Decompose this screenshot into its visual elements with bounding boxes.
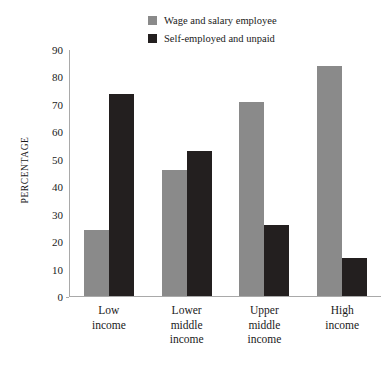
x-axis-labels: LowincomeLowermiddleincomeUppermiddleinc… <box>70 303 381 347</box>
y-tick-label-60: 60 <box>52 126 63 138</box>
bar <box>84 230 109 296</box>
x-axis-label-line: Upper <box>227 303 301 318</box>
x-axis-label-line: income <box>227 332 301 347</box>
legend-item-self-employed: Self-employed and unpaid <box>148 32 277 44</box>
bar <box>317 66 342 296</box>
bar <box>187 151 212 296</box>
x-axis-label-line: income <box>72 318 146 333</box>
x-axis-label-line: middle <box>150 318 224 333</box>
bar-group <box>84 50 134 296</box>
bar <box>264 225 289 296</box>
y-tick-label-10: 10 <box>52 264 63 276</box>
x-axis-label: Highincome <box>305 303 379 347</box>
y-tick-label-50: 50 <box>52 154 63 166</box>
x-axis-label-line: Low <box>72 303 146 318</box>
y-tick-label-70: 70 <box>52 99 63 111</box>
bar <box>239 102 264 296</box>
bar-group <box>317 50 367 296</box>
y-tick-mark-0 <box>66 297 69 298</box>
y-tick-label-80: 80 <box>52 71 63 83</box>
legend-swatch-self-employed <box>148 34 157 43</box>
x-axis-line <box>69 296 381 297</box>
bar-series-container <box>70 50 381 296</box>
x-axis-label-line: income <box>305 318 379 333</box>
legend-label-wage: Wage and salary employee <box>164 15 277 26</box>
plot-area: 0102030405060708090 <box>69 50 381 297</box>
chart-legend: Wage and salary employee Self-employed a… <box>148 14 277 44</box>
x-axis-label: Uppermiddleincome <box>227 303 301 347</box>
bar <box>342 258 367 296</box>
bar <box>162 170 187 296</box>
y-tick-label-30: 30 <box>52 209 63 221</box>
y-tick-label-20: 20 <box>52 236 63 248</box>
legend-swatch-wage <box>148 16 157 25</box>
y-axis-title: PERCENTAGE <box>18 50 32 290</box>
y-tick-label-90: 90 <box>52 44 63 56</box>
x-axis-label: Lowermiddleincome <box>150 303 224 347</box>
legend-item-wage: Wage and salary employee <box>148 14 277 26</box>
bar-group <box>239 50 289 296</box>
legend-label-self-employed: Self-employed and unpaid <box>164 33 275 44</box>
bar-group <box>162 50 212 296</box>
x-axis-label-line: middle <box>227 318 301 333</box>
x-axis-label-line: income <box>150 332 224 347</box>
x-axis-label-line: High <box>305 303 379 318</box>
bar <box>109 94 134 296</box>
y-tick-label-40: 40 <box>52 181 63 193</box>
y-tick-label-0: 0 <box>58 291 64 303</box>
bar-chart: Wage and salary employee Self-employed a… <box>0 0 388 371</box>
x-axis-label-line: Lower <box>150 303 224 318</box>
x-axis-label: Lowincome <box>72 303 146 347</box>
